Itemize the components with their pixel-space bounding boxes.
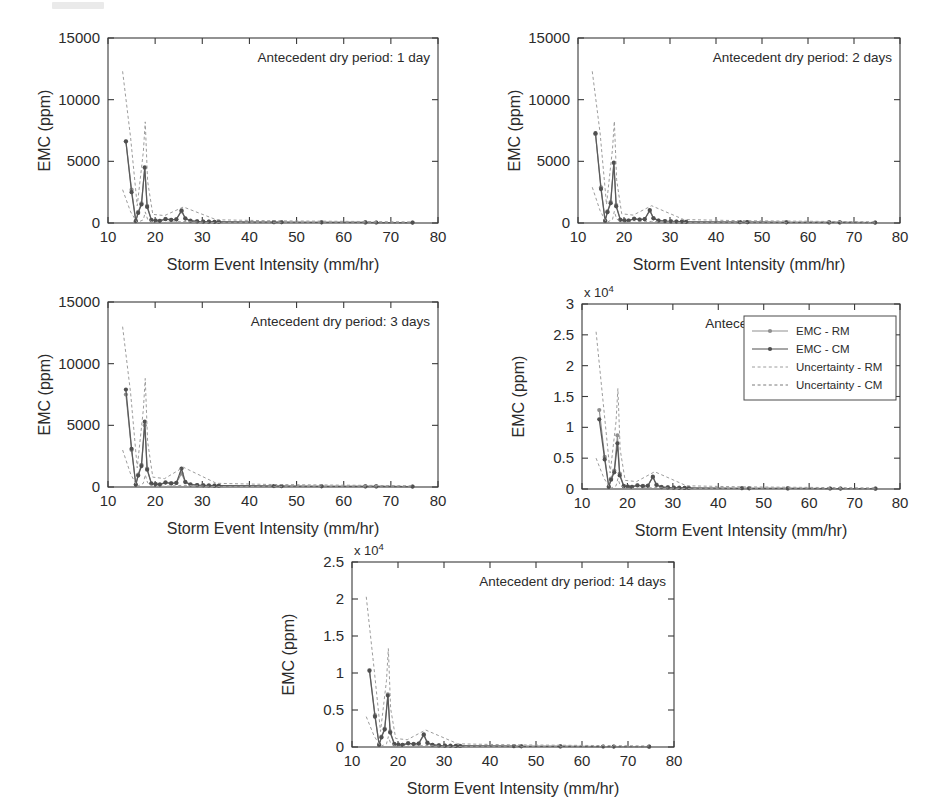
data-point-marker [597,417,601,421]
data-point-marker [410,220,414,224]
panel-5-svg: 102030405060708000.511.522.5x 104EMC (pp… [240,540,700,802]
data-point-marker [179,208,183,212]
y-tick-label: 0 [92,478,100,495]
series-emc-cm [595,133,875,222]
y-tick-label: 0 [562,214,570,231]
x-tick-label: 20 [147,492,164,509]
data-point-marker [383,728,387,732]
data-point-marker [614,204,618,208]
y-tick-label: 2.5 [553,326,574,343]
series-emc-rm [599,410,875,489]
x-tick-label: 70 [620,752,637,769]
series-uncertainty-rm [366,597,649,746]
y-tick-label: 0 [566,480,574,497]
data-point-marker [386,693,390,697]
data-point-marker [454,744,458,748]
y-tick-label: 0.5 [553,449,574,466]
data-point-marker [163,480,167,484]
data-point-marker [648,208,652,212]
legend-label-4: Uncertainty - CM [796,379,882,391]
data-point-marker [129,190,133,194]
y-tick-label: 0 [336,738,344,755]
data-point-marker [605,210,609,214]
x-tick-label: 60 [335,228,352,245]
data-point-marker [443,744,447,748]
data-point-marker [597,408,601,412]
y-tick-label: 2 [566,357,574,374]
data-point-marker [410,484,414,488]
series-emc-cm [126,141,413,222]
series-emc-cm [126,390,413,487]
x-tick-label: 80 [430,228,447,245]
x-tick-label: 60 [335,492,352,509]
data-point-marker [143,420,147,424]
legend-marker-1 [768,329,772,333]
x-axis-title: Storm Event Intensity (mm/hr) [635,522,848,539]
y-tick-label: 15000 [58,293,100,310]
data-point-marker [683,486,687,490]
data-point-marker [647,745,651,749]
x-tick-label: 50 [288,492,305,509]
data-point-marker [593,131,597,135]
axes-frame [578,38,900,223]
x-tick-label: 30 [436,752,453,769]
y-tick-label: 15000 [58,29,100,46]
axes-frame [108,302,438,487]
data-point-marker [674,219,678,223]
data-point-marker [174,481,178,485]
data-point-marker [669,219,673,223]
x-tick-label: 20 [390,752,407,769]
data-point-marker [687,486,691,490]
data-point-marker [651,475,655,479]
x-axis-title: Storm Event Intensity (mm/hr) [633,256,846,273]
series-emc-rm [126,395,413,487]
data-point-marker [145,205,149,209]
axes-frame [352,562,674,747]
x-tick-label: 80 [892,494,909,511]
y-tick-label: 1.5 [323,627,344,644]
y-tick-label: 2 [336,590,344,607]
y-axis-title: EMC (ppm) [36,354,53,436]
y-axis-exponent: x 104 [584,283,614,300]
data-point-marker [367,669,371,673]
data-point-marker [603,457,607,461]
data-point-marker [183,216,187,220]
panel-2-svg: 1020304050607080050001000015000EMC (ppm)… [470,18,925,273]
x-tick-label: 50 [528,752,545,769]
data-point-marker [139,202,143,206]
y-tick-label: 3 [566,295,574,312]
data-point-marker [136,211,140,215]
data-point-marker [207,483,211,487]
data-point-marker [609,478,613,482]
legend-label-1: EMC - RM [796,325,850,337]
y-tick-label: 2.5 [323,553,344,570]
y-axis-title: EMC (ppm) [36,90,53,172]
x-tick-label: 70 [846,494,863,511]
y-tick-label: 15000 [528,29,570,46]
x-tick-label: 40 [482,752,499,769]
data-point-marker [638,218,642,222]
x-tick-label: 10 [100,492,117,509]
data-point-marker [163,217,167,221]
series-uncertainty-rm [592,71,875,222]
data-point-marker [207,220,211,224]
x-tick-label: 40 [708,228,725,245]
data-point-marker [139,464,143,468]
data-point-marker [618,218,622,222]
chart-panel-3: 1020304050607080050001000015000EMC (ppm)… [0,282,470,537]
x-axis-title: Storm Event Intensity (mm/hr) [407,780,620,797]
x-tick-label: 30 [194,492,211,509]
x-tick-label: 80 [666,752,683,769]
data-point-marker [174,217,178,221]
legend-label-3: Uncertainty - RM [796,361,882,373]
data-point-marker [201,483,205,487]
x-tick-label: 80 [892,228,909,245]
x-tick-label: 50 [754,228,771,245]
data-point-marker [169,218,173,222]
panel-4-svg: 102030405060708000.511.522.53x 104EMC (p… [470,282,925,537]
y-tick-label: 0.5 [323,701,344,718]
series-uncertainty-rm [123,327,413,486]
data-point-marker [201,219,205,223]
data-point-marker [437,743,441,747]
data-point-marker [136,473,140,477]
